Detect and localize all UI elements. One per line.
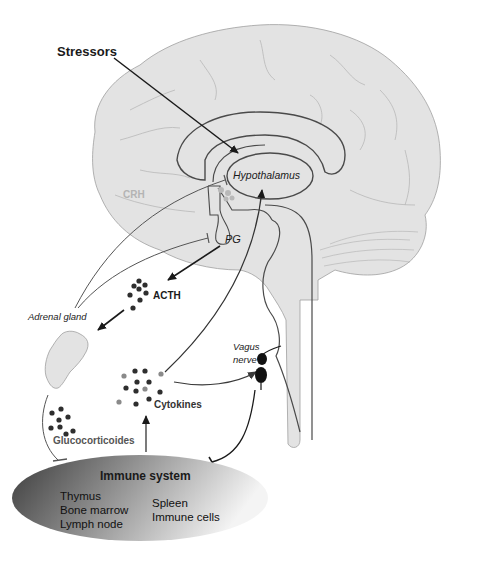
immune-system-column1: Thymus Bone marrow Lymph node <box>60 489 128 531</box>
immune-item-immune-cells: Immune cells <box>152 510 220 524</box>
label-pg: PG <box>225 234 241 245</box>
immune-item-thymus: Thymus <box>60 489 128 503</box>
adrenal-gland <box>45 331 88 388</box>
immune-system-ellipse <box>12 455 268 541</box>
arrow-acth-adrenal <box>98 310 124 330</box>
immune-item-lymph-node: Lymph node <box>60 517 128 531</box>
label-glucocorticoides: Glucocorticoides <box>53 436 135 446</box>
immune-system-column2: Spleen Immune cells <box>152 496 220 524</box>
arrow-cytokines-vagus <box>174 372 256 385</box>
label-adrenal-gland: Adrenal gland <box>28 312 87 322</box>
immune-item-bone-marrow: Bone marrow <box>60 503 128 517</box>
cerebrum <box>93 25 441 448</box>
label-stressors: Stressors <box>57 45 117 58</box>
inhibit-vagus-immune <box>212 390 255 462</box>
label-cytokines: Cytokines <box>154 400 202 410</box>
brain <box>93 25 441 448</box>
stress-immune-diagram <box>0 0 478 563</box>
acth-dots <box>127 278 148 310</box>
label-crh: CRH <box>123 190 145 200</box>
label-hypothalamus: Hypothalamus <box>233 170 300 181</box>
label-vagus-nerve: Vagus nerve <box>233 340 260 366</box>
label-vagus-line1: Vagus <box>233 340 260 353</box>
immune-item-spleen: Spleen <box>152 496 220 510</box>
immune-system-title: Immune system <box>100 470 191 482</box>
label-vagus-line2: nerve <box>233 353 260 366</box>
label-acth: ACTH <box>153 291 181 301</box>
glucocorticoid-dots <box>48 406 75 436</box>
